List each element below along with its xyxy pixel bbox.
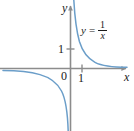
- x-axis-tick-label-1: 1: [78, 72, 84, 84]
- function-graph-figure: y x 0 1 1 y = 1 x: [0, 0, 134, 131]
- equation-annotation: y = 1 x: [81, 20, 107, 41]
- fraction-denominator: x: [98, 31, 106, 41]
- curve-branch-negative: [3, 71, 68, 131]
- origin-label: 0: [61, 70, 67, 82]
- y-axis-label: y: [62, 2, 67, 14]
- x-axis-label: x: [124, 71, 129, 83]
- fraction-numerator: 1: [98, 20, 107, 30]
- plot-canvas: [0, 0, 134, 131]
- equation-lhs: y: [81, 25, 86, 36]
- equals-sign: =: [88, 25, 96, 36]
- fraction-one-over-x: 1 x: [98, 20, 107, 41]
- y-axis-tick-label-1: 1: [58, 43, 64, 55]
